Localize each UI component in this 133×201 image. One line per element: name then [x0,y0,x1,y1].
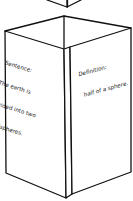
top-box-fragment [47,0,81,7]
foldable-diagram: Sentence: The earth is divided into two … [0,0,133,201]
definition-heading: Definition: [78,60,124,79]
sentence-line-2: divided into two [0,100,37,120]
sentence-line-1: The earth is [0,79,43,99]
sentence-heading: Sentence: [4,59,49,79]
definition-line-1: half of a sphere. [83,80,129,99]
sentence-line-3: hemispheres. [0,120,31,140]
